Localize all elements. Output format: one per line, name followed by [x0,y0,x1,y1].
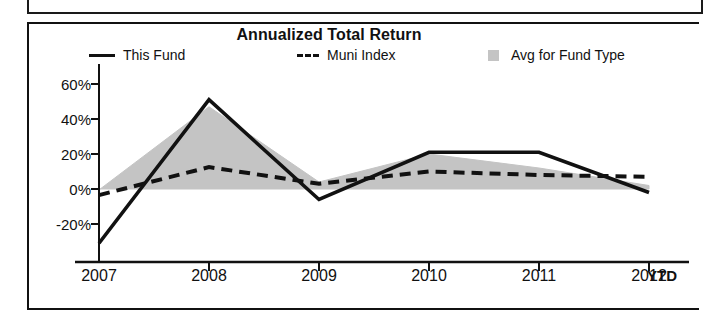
annualized-total-return-chart: Annualized Total Return This Fund Muni I… [27,22,699,310]
y-axis-tick-label: 20% [35,146,91,163]
x-axis-tick-label: 2011 [494,267,584,285]
y-axis-tick-labels: 60%40%20%0%-20% [29,24,91,308]
x-axis-tick-label: 2010 [384,267,474,285]
plot-svg [29,24,699,308]
panel-edge-above [27,0,703,14]
y-axis-tick-label: 40% [35,111,91,128]
plot-area: 60%40%20%0%-20% 200720082009201020112012… [29,24,699,308]
y-axis-tick-label: 60% [35,76,91,93]
x-axis-tick-label: 2008 [164,267,254,285]
y-axis-tick-label: 0% [35,181,91,198]
y-axis-tick-label: -20% [35,216,91,233]
x-axis-ytd-label: YTD [647,267,677,284]
x-axis-tick-label: 2009 [274,267,364,285]
x-axis-tick-label: 2007 [54,267,144,285]
